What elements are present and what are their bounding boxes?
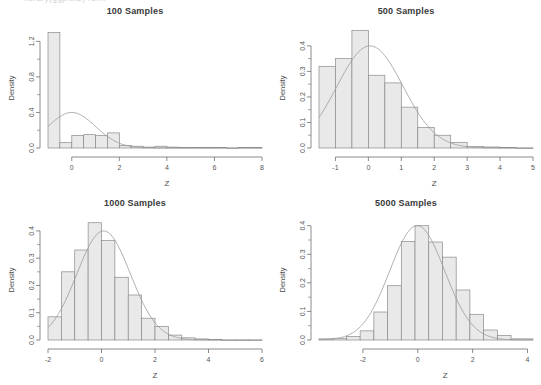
histogram-bar [346, 337, 360, 340]
figure-page: library(ggplot2) runif 100 Samples 0.00.… [0, 0, 541, 385]
y-axis-tick-label: 0.0 [299, 335, 306, 345]
y-axis-tick-label: 0.0 [28, 335, 35, 345]
x-axis: -2024 [360, 349, 530, 363]
histogram-bars [48, 32, 262, 148]
x-axis-tick-label: 4 [498, 164, 502, 171]
y-axis-tick-label: 0.8 [28, 72, 35, 82]
y-axis-tick-label: 0.2 [28, 280, 35, 290]
histogram-bar [352, 31, 368, 148]
histogram-bar [360, 331, 374, 340]
histogram-bar [335, 59, 351, 148]
histogram-bar [128, 295, 141, 340]
histogram-bar [72, 136, 84, 148]
chart-panel-1000-samples: 1000 Samples 0.00.10.20.30.4-20246ZDensi… [0, 192, 270, 384]
chart-panel-500-samples: 500 Samples 0.00.10.20.30.4-1012345ZDens… [271, 0, 541, 192]
x-axis-tick-label: 1 [399, 164, 403, 171]
histogram-bar [319, 66, 335, 148]
histogram-bar [401, 107, 417, 148]
histogram-bars [319, 31, 533, 149]
x-axis-label: Z [432, 179, 437, 188]
y-axis-tick-label: 0.0 [28, 143, 35, 153]
y-axis-label: Density [278, 75, 287, 100]
y-axis: 0.00.40.81.2 [28, 36, 40, 153]
histogram-bars [319, 226, 533, 340]
x-axis-tick-label: 5 [531, 164, 535, 171]
y-axis-tick-label: 0.3 [299, 249, 306, 259]
x-axis-tick-label: -1 [332, 164, 338, 171]
y-axis-tick-label: 0.4 [299, 41, 306, 51]
x-axis-label: Z [443, 371, 448, 380]
x-axis: -1012345 [332, 157, 535, 171]
histogram-bar [456, 290, 470, 340]
x-axis-label: Z [153, 371, 158, 380]
x-axis-tick-label: -2 [45, 356, 51, 363]
y-axis-tick-label: 0.1 [299, 306, 306, 316]
chart-panel-5000-samples: 5000 Samples 0.00.10.20.30.4-2024ZDensit… [271, 192, 541, 384]
histogram-bar [385, 83, 401, 148]
y-axis-tick-label: 0.3 [299, 66, 306, 76]
x-axis-tick-label: 2 [117, 164, 121, 171]
y-axis-tick-label: 0.4 [299, 221, 306, 231]
y-axis-tick-label: 0.0 [299, 143, 306, 153]
y-axis: 0.00.10.20.30.4 [299, 41, 311, 153]
y-axis-label: Density [7, 75, 16, 100]
x-axis-tick-label: 0 [416, 356, 420, 363]
x-axis-tick-label: 8 [260, 164, 264, 171]
histogram-svg: 0.00.10.20.30.4-2024ZDensity [271, 192, 541, 384]
x-axis-tick-label: 3 [465, 164, 469, 171]
histogram-bar [388, 286, 402, 340]
histogram-svg: 0.00.40.81.202468ZDensity [0, 0, 270, 192]
y-axis-tick-label: 1.2 [28, 36, 35, 46]
x-axis: 02468 [70, 157, 264, 171]
histogram-bar [96, 136, 108, 148]
histogram-bar [168, 335, 181, 340]
y-axis-tick-label: 0.1 [28, 308, 35, 318]
x-axis-tick-label: 6 [212, 164, 216, 171]
y-axis-tick-label: 0.4 [28, 107, 35, 117]
x-axis-tick-label: 0 [366, 164, 370, 171]
x-axis-tick-label: 0 [100, 356, 104, 363]
histogram-bar [48, 317, 61, 340]
histogram-bar [84, 135, 96, 148]
histogram-bar [102, 240, 115, 340]
histogram-bar [415, 226, 429, 340]
histogram-bar [88, 223, 101, 340]
chart-panel-100-samples: 100 Samples 0.00.40.81.202468ZDensity [0, 0, 270, 192]
histogram-bar [60, 143, 72, 148]
y-axis-label: Density [7, 267, 16, 292]
y-axis-tick-label: 0.3 [28, 253, 35, 263]
histogram-svg: 0.00.10.20.30.4-1012345ZDensity [271, 0, 541, 192]
x-axis-tick-label: 4 [526, 356, 530, 363]
y-axis-tick-label: 0.2 [299, 92, 306, 102]
histogram-bar [401, 241, 415, 340]
histogram-bar [115, 277, 128, 340]
histogram-bar [374, 312, 388, 340]
x-axis-tick-label: 2 [153, 356, 157, 363]
y-axis-tick-label: 0.2 [299, 278, 306, 288]
x-axis-tick-label: 2 [471, 356, 475, 363]
x-axis-tick-label: -2 [360, 356, 366, 363]
x-axis-tick-label: 4 [207, 356, 211, 363]
histogram-bar [142, 318, 155, 340]
x-axis-label: Z [164, 179, 169, 188]
histogram-svg: 0.00.10.20.30.4-20246ZDensity [0, 192, 270, 384]
histogram-bar [61, 272, 74, 340]
y-axis: 0.00.10.20.30.4 [299, 221, 311, 345]
histogram-bar [48, 32, 60, 148]
y-axis-tick-label: 0.4 [28, 226, 35, 236]
y-axis-tick-label: 0.1 [299, 117, 306, 127]
x-axis-tick-label: 6 [260, 356, 264, 363]
x-axis-tick-label: 4 [165, 164, 169, 171]
x-axis-tick-label: 2 [432, 164, 436, 171]
y-axis: 0.00.10.20.30.4 [28, 226, 40, 345]
histogram-bar [470, 314, 484, 340]
histogram-bar [429, 242, 443, 340]
y-axis-label: Density [278, 267, 287, 292]
x-axis-tick-label: 0 [70, 164, 74, 171]
x-axis: -20246 [45, 349, 264, 363]
histogram-bar [368, 75, 384, 148]
